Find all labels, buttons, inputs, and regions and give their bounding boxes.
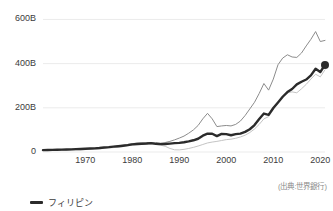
y-tick-label-400B: 400B [0, 58, 36, 68]
endpoint-dot-フィリピン [321, 61, 329, 69]
series-layer [43, 32, 325, 151]
gridlines [43, 19, 325, 152]
endpoint-marker [321, 61, 329, 69]
source-note: (出典:世界銀行) [278, 180, 327, 191]
x-tick-label-1990: 1990 [159, 155, 199, 165]
y-tick-label-200B: 200B [0, 102, 36, 112]
gdp-line-chart: 0200B400B600B 197019801990200020102020 (… [0, 0, 333, 211]
x-tick-label-1970: 1970 [65, 155, 105, 165]
x-tick-label-2010: 2010 [253, 155, 293, 165]
legend-label-philippines: フィリピン [48, 196, 93, 209]
series-line-upper-comparison [43, 32, 325, 151]
x-tick-label-2000: 2000 [206, 155, 246, 165]
x-tick-label-2020: 2020 [300, 155, 333, 165]
chart-legend[interactable]: フィリピン [30, 196, 93, 209]
y-tick-label-0: 0 [0, 146, 36, 156]
series-line-lower-comparison [43, 70, 325, 151]
x-tick-label-1980: 1980 [112, 155, 152, 165]
legend-line-swatch-philippines [30, 201, 43, 204]
y-tick-label-600B: 600B [0, 13, 36, 23]
